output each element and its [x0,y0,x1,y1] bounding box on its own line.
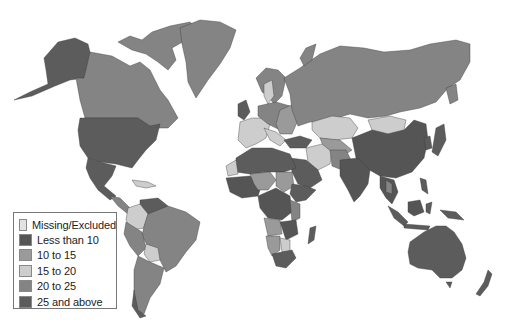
region-western-europe [238,118,270,148]
legend-item-15-to-20: 15 to 20 [19,263,116,278]
region-madagascar [308,226,316,244]
legend-swatch [19,280,32,292]
legend-item-missing: Missing/Excluded [19,217,116,232]
region-central-africa [258,188,292,220]
legend-label: Missing/Excluded [32,219,116,231]
map-legend: Missing/Excluded Less than 10 10 to 15 1… [13,212,117,309]
legend-swatch [19,234,32,246]
legend-label: Less than 10 [37,234,99,246]
legend-swatch [19,296,32,308]
region-north-africa [236,148,296,174]
legend-swatch [19,249,32,261]
region-greenland [180,20,236,98]
legend-label: 10 to 15 [37,249,76,261]
region-turkey [284,136,312,148]
region-uk [238,100,250,120]
region-tasmania [446,282,452,288]
region-japan [432,124,446,156]
legend-item-10-to-15: 10 to 15 [19,248,116,263]
region-sumatra [388,206,408,226]
legend-label: 15 to 20 [37,265,76,277]
legend-swatch [19,219,27,231]
region-east-africa [290,200,300,222]
region-west-sahara [226,160,238,176]
region-sulawesi-png [426,202,464,220]
region-southern-central [280,220,298,240]
region-java [404,224,430,230]
region-borneo [408,200,424,216]
legend-item-less-than-10: Less than 10 [19,232,116,247]
region-angola [264,218,282,236]
region-argentina-chile [134,256,164,314]
region-botswana [280,238,290,252]
legend-item-25-and-above: 25 and above [19,294,116,309]
region-mexico [86,158,116,200]
region-australia [408,226,466,278]
region-new-zealand [476,270,492,296]
legend-label: 25 and above [37,296,102,308]
region-caribbean [132,180,156,188]
legend-item-20-to-25: 20 to 25 [19,279,116,294]
legend-swatch [19,265,32,277]
legend-label: 20 to 25 [37,280,76,292]
region-philippines [420,178,428,194]
